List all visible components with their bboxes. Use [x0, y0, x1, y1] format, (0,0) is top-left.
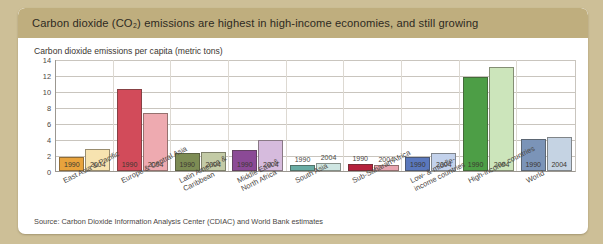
y-tick-label: 12 [43, 72, 51, 81]
y-tick-label: 0 [47, 168, 51, 177]
y-tick-label: 2 [47, 152, 51, 161]
bar-1990: 1990 [463, 77, 488, 171]
y-tick-label: 14 [43, 56, 51, 65]
bar-1990: 1990 [117, 89, 142, 171]
chart-plot-area: 02468101214 1990200419902004199020041990… [28, 60, 580, 188]
y-axis: 02468101214 [28, 60, 54, 172]
chart-card: Carbon dioxide (CO₂) emissions are highe… [18, 8, 588, 234]
y-tick-label: 4 [47, 136, 51, 145]
bar-group: 19902004 [229, 60, 287, 171]
y-tick-label: 8 [47, 104, 51, 113]
bar-group: 19902004 [287, 60, 345, 171]
y-tick-label: 10 [43, 88, 51, 97]
y-tick-label: 6 [47, 120, 51, 129]
source-note: Source: Carbon Dioxide Information Analy… [34, 217, 323, 226]
bar-2004: 2004 [547, 137, 572, 171]
page-title: Carbon dioxide (CO₂) emissions are highe… [32, 17, 478, 29]
chart-subtitle: Carbon dioxide emissions per capita (met… [34, 46, 223, 56]
plot-canvas: 1990200419902004199020041990200419902004… [55, 60, 576, 172]
bar-year-label: 2004 [317, 153, 340, 162]
bar-year-label: 2004 [548, 160, 571, 169]
bar-year-label: 1990 [291, 155, 314, 164]
card-header: Carbon dioxide (CO₂) emissions are highe… [18, 8, 588, 38]
bar-groups: 1990200419902004199020041990200419902004… [56, 60, 575, 171]
bar-year-label: 1990 [349, 154, 372, 163]
page-root: Carbon dioxide (CO₂) emissions are highe… [0, 0, 603, 244]
